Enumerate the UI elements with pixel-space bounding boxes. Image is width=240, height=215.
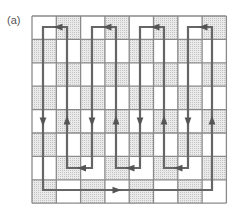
- shaded-cell: [202, 110, 226, 133]
- shaded-cell: [129, 133, 153, 156]
- shaded-cell: [178, 39, 202, 62]
- shaded-cell: [32, 180, 56, 203]
- shaded-cell: [178, 86, 202, 109]
- shaded-cell: [178, 180, 202, 203]
- shaded-cell: [32, 133, 56, 156]
- shaded-cell: [56, 63, 80, 86]
- shaded-cell: [178, 133, 202, 156]
- hamiltonian-grid-diagram: [0, 0, 240, 215]
- shaded-cell: [202, 63, 226, 86]
- shaded-cell: [129, 180, 153, 203]
- shaded-cell: [32, 39, 56, 62]
- arrow-down-icon: [89, 118, 96, 127]
- arrow-down-icon: [185, 118, 192, 127]
- shaded-cell: [129, 39, 153, 62]
- shaded-cell: [129, 86, 153, 109]
- shaded-cell: [32, 86, 56, 109]
- arrow-down-icon: [137, 118, 144, 127]
- shaded-cell: [154, 63, 178, 86]
- arrow-down-icon: [40, 118, 47, 127]
- shaded-cell: [81, 180, 105, 203]
- arrow-right-icon: [113, 187, 122, 194]
- shaded-cell: [202, 156, 226, 179]
